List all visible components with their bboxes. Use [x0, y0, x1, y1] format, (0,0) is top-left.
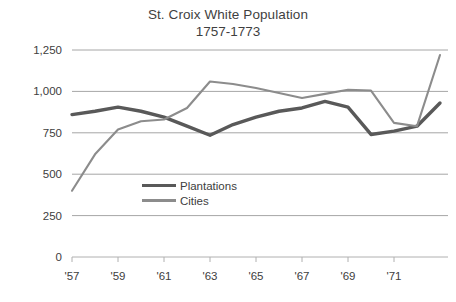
x-axis-tick-label: '67: [282, 270, 322, 282]
y-axis-tick-label: 1,000: [2, 85, 62, 97]
legend-item-cities: Cities: [142, 193, 237, 208]
y-axis-tick-label: 250: [2, 210, 62, 222]
series-line-plantations: [72, 101, 440, 135]
chart-legend: Plantations Cities: [142, 178, 237, 208]
legend-item-plantations: Plantations: [142, 178, 237, 193]
series-lines: [72, 55, 440, 191]
x-axis-tick-label: '63: [190, 270, 230, 282]
legend-swatch-plantations: [142, 184, 176, 187]
x-axis-tick-label: '69: [328, 270, 368, 282]
y-axis-tick-label: 0: [2, 251, 62, 263]
y-axis-tick-label: 1,250: [2, 44, 62, 56]
x-axis-tick-label: '61: [144, 270, 184, 282]
x-axis-tick-label: '57: [52, 270, 92, 282]
legend-label-cities: Cities: [180, 195, 209, 207]
legend-swatch-cities: [142, 199, 176, 201]
x-axis-ticks: [72, 257, 394, 262]
plot-area: [0, 0, 456, 302]
x-axis-tick-label: '59: [98, 270, 138, 282]
x-axis-tick-label: '71: [374, 270, 414, 282]
gridlines: [72, 50, 448, 257]
series-line-cities: [72, 55, 440, 191]
y-axis-tick-label: 750: [2, 127, 62, 139]
x-axis-tick-label: '65: [236, 270, 276, 282]
legend-label-plantations: Plantations: [180, 180, 237, 192]
y-axis-tick-label: 500: [2, 168, 62, 180]
chart-container: St. Croix White Population 1757-1773 025…: [0, 0, 456, 302]
